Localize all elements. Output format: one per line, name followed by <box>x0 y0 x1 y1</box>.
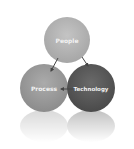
reflections <box>15 110 120 142</box>
people-process-technology-diagram: People Process Technology <box>0 0 134 149</box>
technology-label: Technology <box>74 86 109 93</box>
arrow-people-to-technology <box>82 57 88 66</box>
process-label: Process <box>31 85 58 92</box>
people-label: People <box>55 37 78 45</box>
